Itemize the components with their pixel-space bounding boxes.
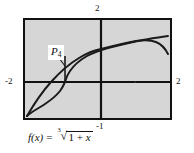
caption-equals: = — [46, 131, 52, 143]
annotation-p4-base: P — [51, 45, 58, 57]
annotation-p4-subscript: 4 — [58, 50, 62, 59]
caption-function-name: f(x) — [28, 131, 43, 143]
radicand-lead: 1 + — [68, 131, 85, 143]
cube-root-radical: 3√1 + x — [56, 131, 92, 143]
axis-label-left: -2 — [5, 77, 13, 86]
plot-frame — [23, 18, 172, 120]
radicand: 1 + x — [66, 131, 92, 143]
axis-label-top: 2 — [95, 4, 100, 13]
radical-sign-icon: √ — [60, 130, 67, 142]
plot-canvas — [25, 20, 170, 118]
annotation-p4: P4 — [48, 45, 64, 60]
axis-label-right: 2 — [176, 77, 181, 86]
figure-container: 2 -2 2 -1 P4 f(x)=3√1 + x — [0, 0, 194, 153]
radicand-variable: x — [86, 131, 91, 143]
axis-label-bottom: -1 — [96, 122, 104, 131]
figure-caption: f(x)=3√1 + x — [28, 131, 93, 143]
x-axis-tick-mark — [134, 81, 136, 83]
